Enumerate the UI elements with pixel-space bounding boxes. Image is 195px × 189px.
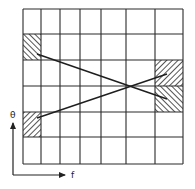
diagram-canvas: θ f xyxy=(0,0,195,189)
grid xyxy=(23,9,183,164)
mapping-line-bottom-to-top xyxy=(37,74,167,118)
hatched-cell-right-lower xyxy=(155,86,183,112)
mapping-line-top-to-bottom xyxy=(37,54,167,99)
f-axis-label: f xyxy=(71,170,75,180)
hatched-cell-bottom-left xyxy=(23,112,41,137)
hatched-cell-top-left xyxy=(23,34,41,60)
theta-axis-label: θ xyxy=(10,110,16,120)
hatched-cell-right-upper xyxy=(155,60,183,86)
